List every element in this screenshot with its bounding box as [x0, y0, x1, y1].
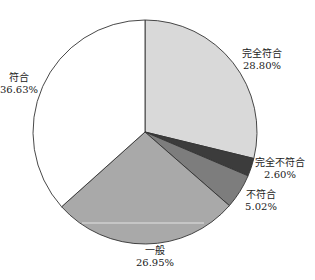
slice-label-disagree: 不符合 5.02% — [245, 189, 277, 213]
pie-chart-svg — [0, 0, 315, 280]
slice-label-fully-agree: 完全符合 28.80% — [242, 48, 282, 72]
slice-label-name: 不符合 — [245, 189, 277, 201]
slice-label-value: 36.63% — [0, 84, 38, 96]
slice-label-name: 符合 — [0, 72, 38, 84]
slice-label-value: 2.60% — [255, 169, 305, 181]
slice-label-name: 完全不符合 — [255, 157, 305, 169]
slice-label-name: 完全符合 — [242, 48, 282, 60]
slice-label-name: 一般 — [136, 245, 174, 257]
slice-label-value: 26.95% — [136, 257, 174, 269]
slice-label-agree: 符合 36.63% — [0, 72, 38, 96]
slice-label-value: 5.02% — [245, 201, 277, 213]
pie-chart: 完全符合 28.80% 完全不符合 2.60% 不符合 5.02% 一般 26.… — [0, 0, 315, 280]
slice-label-fully-disagree: 完全不符合 2.60% — [255, 157, 305, 181]
slice-label-neutral: 一般 26.95% — [136, 245, 174, 269]
slice-label-value: 28.80% — [242, 60, 282, 72]
